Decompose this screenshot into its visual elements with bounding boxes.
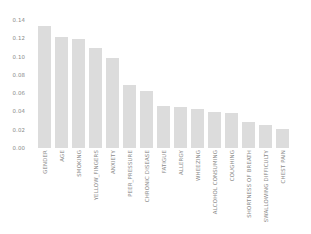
x-label-slot: CHRONIC DISEASE xyxy=(138,150,155,234)
x-label-slot: PEER_PRESSURE xyxy=(121,150,138,234)
x-tick-label: PEER_PRESSURE xyxy=(127,150,133,197)
bar-slot xyxy=(223,20,240,148)
x-label-slot: COUGHING xyxy=(223,150,240,234)
bar-slot xyxy=(121,20,138,148)
x-tick-label: AGE xyxy=(59,150,65,162)
y-tick-label: 0.14 xyxy=(13,17,25,23)
x-tick-label: SHORTNESS OF BREATH xyxy=(246,150,252,218)
bar-chart-figure: 0.140.120.100.080.060.040.020.00 GENDERA… xyxy=(0,0,311,234)
x-label-slot: SHORTNESS OF BREATH xyxy=(240,150,257,234)
bar-slot xyxy=(240,20,257,148)
bar[interactable] xyxy=(72,39,85,148)
y-axis-tick-labels: 0.140.120.100.080.060.040.020.00 xyxy=(0,20,29,148)
bar[interactable] xyxy=(259,125,272,148)
x-label-slot: WHEEZING xyxy=(189,150,206,234)
bar-slot xyxy=(36,20,53,148)
bar-slot xyxy=(189,20,206,148)
bar[interactable] xyxy=(242,122,255,149)
y-tick-label: 0.10 xyxy=(13,54,25,60)
bar-slot xyxy=(257,20,274,148)
y-tick-label: 0.08 xyxy=(13,72,25,78)
bar[interactable] xyxy=(55,37,68,148)
x-label-slot: AGE xyxy=(53,150,70,234)
x-label-slot: GENDER xyxy=(36,150,53,234)
x-label-slot: SWALLOWING DIFFICULTY xyxy=(257,150,274,234)
x-label-slot: SMOKING xyxy=(70,150,87,234)
x-tick-label: CHEST PAIN xyxy=(280,150,286,183)
bar-slot xyxy=(274,20,291,148)
y-tick-label: 0.02 xyxy=(13,127,25,133)
x-label-slot: FATIGUE xyxy=(155,150,172,234)
x-label-slot: YELLOW_FINGERS xyxy=(87,150,104,234)
x-tick-label: WHEEZING xyxy=(195,150,201,181)
x-tick-label: ALLERGY xyxy=(178,150,184,175)
x-tick-label: FATIGUE xyxy=(161,150,167,173)
x-tick-label: CHRONIC DISEASE xyxy=(144,150,150,202)
y-tick-label: 0.00 xyxy=(13,145,25,151)
bar[interactable] xyxy=(106,58,119,148)
x-tick-label: COUGHING xyxy=(229,150,235,181)
bar[interactable] xyxy=(89,48,102,148)
bar[interactable] xyxy=(38,26,51,148)
bar[interactable] xyxy=(123,85,136,148)
bar-slot xyxy=(155,20,172,148)
bar-series xyxy=(33,20,294,148)
bar[interactable] xyxy=(140,91,153,148)
bar[interactable] xyxy=(225,113,238,148)
bar-slot xyxy=(138,20,155,148)
x-tick-label: ANXIETY xyxy=(110,150,116,174)
plot-area xyxy=(33,20,294,148)
x-tick-label: SMOKING xyxy=(76,150,82,177)
x-label-slot: ANXIETY xyxy=(104,150,121,234)
x-tick-label: YELLOW_FINGERS xyxy=(93,150,99,200)
bar-slot xyxy=(70,20,87,148)
bar-slot xyxy=(87,20,104,148)
x-tick-label: SWALLOWING DIFFICULTY xyxy=(263,150,269,222)
bar[interactable] xyxy=(157,106,170,149)
x-axis-tick-labels: GENDERAGESMOKINGYELLOW_FINGERSANXIETYPEE… xyxy=(33,150,294,234)
y-tick-label: 0.06 xyxy=(13,90,25,96)
x-label-slot: CHEST PAIN xyxy=(274,150,291,234)
x-tick-label: ALCOHOL CONSUMING xyxy=(212,150,218,214)
bar-slot xyxy=(104,20,121,148)
bar[interactable] xyxy=(208,112,221,148)
y-tick-label: 0.12 xyxy=(13,35,25,41)
bar[interactable] xyxy=(191,109,204,148)
bar-slot xyxy=(172,20,189,148)
x-label-slot: ALCOHOL CONSUMING xyxy=(206,150,223,234)
x-tick-label: GENDER xyxy=(42,150,48,174)
bar-slot xyxy=(53,20,70,148)
bar-slot xyxy=(206,20,223,148)
bar[interactable] xyxy=(276,129,289,148)
x-label-slot: ALLERGY xyxy=(172,150,189,234)
bar[interactable] xyxy=(174,107,187,148)
y-tick-label: 0.04 xyxy=(13,108,25,114)
